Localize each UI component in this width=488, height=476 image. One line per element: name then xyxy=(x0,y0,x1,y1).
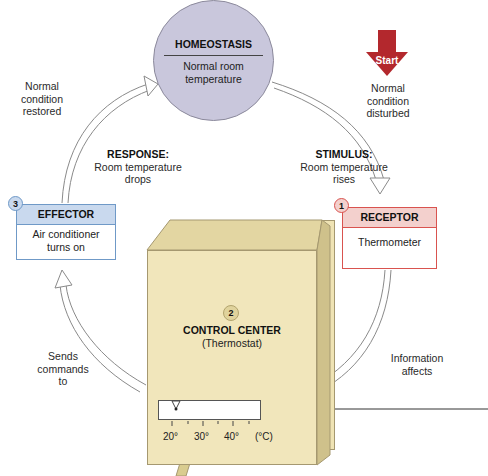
tick-20: 20° xyxy=(163,431,178,442)
tick-30: 30° xyxy=(194,431,209,442)
tick-unit: (°C) xyxy=(255,431,273,442)
dial-ticks xyxy=(0,0,488,476)
tick-40: 40° xyxy=(224,431,239,442)
